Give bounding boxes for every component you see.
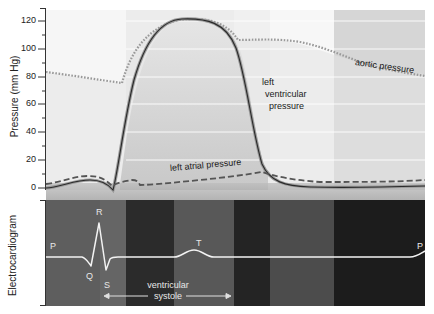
diagram-canvas [0,0,434,314]
ecg-axis-label: Electrocardiogram [7,196,18,314]
ventricular-systole-label-line2: systole [146,291,190,301]
pressure-floor [46,183,425,200]
y-tick-120: 120 [14,15,36,25]
lv-label-line1: left [262,77,274,88]
ecg-label-p-start: P [50,241,56,251]
y-tick-20: 20 [14,154,36,164]
y-tick-60: 60 [14,98,36,108]
ecg-label-r: R [96,207,103,217]
ecg-label-t: T [196,238,202,248]
y-tick-40: 40 [14,126,36,136]
ecg-axis [40,200,46,306]
ventricular-systole-label-line1: ventricular [146,280,190,290]
y-tick-0: 0 [14,182,36,192]
cardiac-cycle-diagram: Pressure (mm Hg) Electrocardiogram 0 20 … [0,0,434,314]
lv-label-line3: pressure [269,101,304,112]
y-axis [38,8,46,190]
ecg-label-s: S [104,280,110,290]
y-tick-100: 100 [14,43,36,53]
y-tick-80: 80 [14,71,36,81]
lv-label-line2: ventricular [265,89,307,100]
ecg-label-q: Q [86,271,93,281]
ecg-label-p-end: P [417,241,423,251]
